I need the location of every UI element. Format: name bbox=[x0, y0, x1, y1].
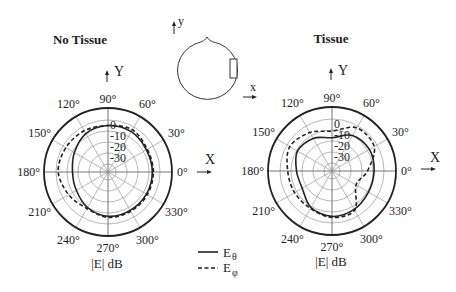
angle-tick-label: 120° bbox=[57, 97, 80, 111]
arrow-up-icon bbox=[329, 68, 333, 73]
right-y-axis-indicator: Y bbox=[329, 63, 348, 80]
angle-tick-label: 300° bbox=[136, 233, 159, 247]
right-chart-title: Tissue bbox=[313, 31, 348, 46]
legend-item-e-phi: E φ bbox=[198, 260, 238, 278]
grid-spoke bbox=[108, 172, 163, 204]
angle-tick-label: 0° bbox=[177, 165, 188, 179]
radial-tick-label: -30 bbox=[110, 151, 126, 165]
legend: E θ E φ bbox=[198, 245, 238, 278]
head-diagram: y x bbox=[172, 14, 257, 99]
left-y-axis-indicator: Y bbox=[105, 64, 124, 82]
angle-tick-label: 90° bbox=[100, 92, 117, 106]
left-chart-title: No Tissue bbox=[53, 32, 107, 47]
angle-tick-label: 30° bbox=[392, 125, 409, 139]
angle-tick-label: 90° bbox=[324, 91, 341, 105]
arrow-right-icon bbox=[252, 95, 257, 99]
angle-tick-label: 60° bbox=[363, 96, 380, 110]
angle-tick-label: 210° bbox=[252, 204, 275, 218]
arrow-up-icon bbox=[105, 70, 109, 75]
arrow-right-icon bbox=[431, 167, 436, 171]
left-x-label: X bbox=[205, 152, 215, 167]
grid-spoke bbox=[332, 171, 387, 203]
angle-tick-label: 180° bbox=[17, 165, 40, 179]
angle-tick-label: 270° bbox=[97, 241, 120, 255]
head-x-label: x bbox=[250, 80, 256, 94]
head-y-label: y bbox=[178, 14, 184, 28]
antenna-device bbox=[230, 59, 237, 78]
angle-tick-label: 180° bbox=[241, 164, 264, 178]
left-radial-axis-label: |E| dB bbox=[91, 256, 123, 271]
radial-tick-label: -30 bbox=[334, 150, 350, 164]
legend-item-e-theta: E θ bbox=[198, 245, 237, 262]
angle-tick-label: 240° bbox=[281, 232, 304, 246]
legend-label: E bbox=[223, 260, 231, 275]
angle-tick-label: 150° bbox=[252, 125, 275, 139]
right-polar-chart: 0-10-20-300°30°60°90°120°150°180°210°240… bbox=[241, 91, 412, 254]
legend-subscript: θ bbox=[232, 251, 237, 262]
legend-label: E bbox=[223, 245, 231, 260]
right-y-label: Y bbox=[338, 63, 348, 78]
left-polar-chart: 0-10-20-300°30°60°90°120°150°180°210°240… bbox=[17, 92, 188, 255]
legend-subscript: φ bbox=[232, 267, 238, 278]
grid-spoke bbox=[108, 172, 140, 227]
angle-tick-label: 270° bbox=[321, 240, 344, 254]
angle-tick-label: 330° bbox=[165, 205, 188, 219]
angle-tick-label: 240° bbox=[57, 233, 80, 247]
angle-tick-label: 300° bbox=[360, 232, 383, 246]
arrow-right-icon bbox=[207, 170, 212, 174]
grid-spoke bbox=[76, 117, 108, 172]
grid-spoke bbox=[300, 171, 332, 226]
right-radial-axis-label: |E| dB bbox=[315, 254, 347, 269]
angle-tick-label: 210° bbox=[28, 205, 51, 219]
left-x-axis-indicator: X bbox=[197, 152, 215, 174]
left-y-label: Y bbox=[114, 64, 124, 79]
angle-tick-label: 60° bbox=[139, 97, 156, 111]
right-x-axis-indicator: X bbox=[421, 150, 440, 171]
angle-tick-label: 330° bbox=[389, 204, 412, 218]
angle-tick-label: 120° bbox=[281, 96, 304, 110]
angle-tick-label: 150° bbox=[28, 126, 51, 140]
angle-tick-label: 30° bbox=[168, 126, 185, 140]
figure: No Tissue Tissue Y Y X X y x 0-10-20-300… bbox=[0, 0, 456, 292]
right-x-label: X bbox=[430, 150, 440, 165]
head-outline bbox=[178, 37, 238, 99]
arrow-up-icon bbox=[172, 21, 176, 26]
grid-spoke bbox=[277, 171, 332, 203]
angle-tick-label: 0° bbox=[401, 164, 412, 178]
